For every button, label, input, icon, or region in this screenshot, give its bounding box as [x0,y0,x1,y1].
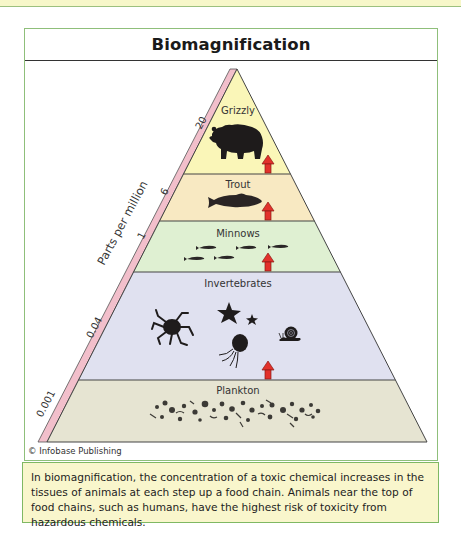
level-label-invertebrates: Invertebrates [204,278,271,289]
copyright-credit: © Infobase Publishing [28,446,122,456]
level-label-plankton: Plankton [216,385,259,396]
level-label-grizzly: Grizzly [221,105,255,116]
level-label-trout: Trout [225,179,251,190]
figure-caption: In biomagnification, the concentration o… [22,462,439,523]
level-label-minnows: Minnows [216,228,260,239]
